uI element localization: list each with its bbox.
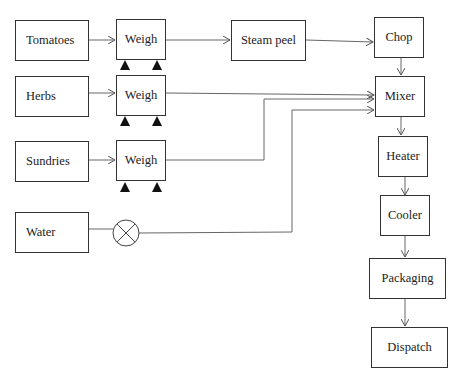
node-label: Dispatch [387,340,431,355]
node-weigh-tomatoes: Weigh [116,19,166,60]
arrow-weigh2-mixer [166,93,374,95]
node-weigh-herbs: Weigh [116,75,166,116]
node-packaging: Packaging [369,258,446,299]
arrow-steampeel-chop [306,40,373,42]
node-label: Tomatoes [26,33,74,48]
node-herbs: Herbs [15,76,89,117]
node-label: Steam peel [241,33,296,48]
node-heater: Heater [378,136,428,177]
node-label: Weigh [125,32,157,47]
valve-icon [113,220,139,246]
node-label: Weigh [125,88,157,103]
node-tomatoes: Tomatoes [15,20,89,61]
node-label: Herbs [26,89,56,104]
node-water: Water [15,212,89,253]
node-label: Packaging [381,271,433,286]
node-mixer: Mixer [375,76,425,117]
node-weigh-sundries: Weigh [116,140,166,181]
node-dispatch: Dispatch [371,327,448,368]
node-label: Mixer [385,89,416,104]
node-steam-peel: Steam peel [231,20,306,61]
node-cooler: Cooler [380,195,430,236]
node-chop: Chop [374,17,424,58]
node-label: Water [26,225,56,240]
arrow-valve-mixer [139,110,374,233]
node-label: Heater [386,149,419,164]
node-label: Chop [385,30,412,45]
node-sundries: Sundries [15,141,89,182]
node-label: Weigh [125,153,157,168]
node-label: Sundries [26,154,70,169]
arrow-weigh3-mixer [166,99,374,160]
node-label: Cooler [388,208,422,223]
